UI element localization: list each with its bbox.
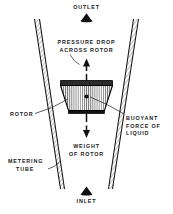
metering-tube-label-line1: METERING (8, 158, 43, 164)
buoyant-force-label-line1: BUOYANT (126, 115, 158, 121)
metering-tube-label-line2: TUBE (16, 166, 34, 172)
rotor-center-dot-icon (84, 94, 88, 98)
buoyant-force-label-line2: FORCE OF (126, 123, 161, 129)
inlet-label: INLET (77, 198, 97, 204)
rotameter-diagram: OUTLET PRESSURE DROP ACROSS ROTOR (0, 0, 173, 214)
buoyant-force-label-line3: LIQUID (126, 130, 149, 136)
pressure-drop-label-line2: ACROSS ROTOR (59, 47, 113, 53)
rotor-label: ROTOR (10, 111, 34, 117)
pressure-drop-label-line1: PRESSURE DROP (58, 39, 116, 45)
weight-label-line1: WEIGHT (73, 143, 100, 149)
weight-label-line2: OF ROTOR (69, 151, 104, 157)
rotor-body (61, 81, 113, 114)
weight-label-group: WEIGHT OF ROTOR (69, 143, 104, 157)
outlet-label: OUTLET (73, 4, 100, 10)
diagram-canvas: OUTLET PRESSURE DROP ACROSS ROTOR (0, 0, 173, 214)
